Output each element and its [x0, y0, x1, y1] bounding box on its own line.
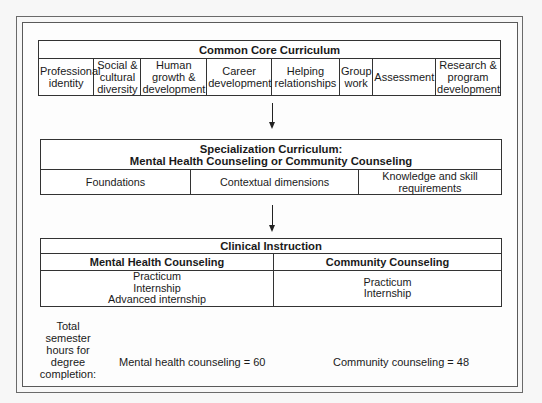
- cell-line: Helping: [273, 65, 338, 77]
- spec-cell-foundations: Foundations: [41, 170, 191, 195]
- clinical-item: Advanced internship: [42, 294, 272, 306]
- common-core-title: Common Core Curriculum: [39, 41, 501, 59]
- cell-line: Contextual dimensions: [192, 176, 357, 188]
- cell-line: program: [437, 71, 499, 83]
- cell-line: Group: [341, 65, 371, 77]
- cell-line: growth &: [142, 71, 205, 83]
- clinical-title: Clinical Instruction: [41, 239, 502, 254]
- label-line: completion:: [36, 368, 100, 380]
- clinical-header-mental-health: Mental Health Counseling: [41, 254, 274, 271]
- core-cell-assessment: Assessment: [373, 59, 436, 96]
- clinical-item: Internship: [275, 288, 500, 300]
- common-core-table: Common Core Curriculum Professional iden…: [38, 40, 501, 96]
- cell-line: Professional: [40, 65, 92, 77]
- core-cell-human-growth: Human growth & development: [141, 59, 207, 96]
- core-cell-professional-identity: Professional identity: [39, 59, 94, 96]
- core-cell-research-program-development: Research & program development: [436, 59, 501, 96]
- total-mental-health-hours: Mental health counseling = 60: [119, 356, 265, 368]
- total-hours-label: Total semester hours for degree completi…: [36, 320, 100, 380]
- spec-cell-knowledge-skill: Knowledge and skill requirements: [359, 170, 502, 195]
- specialization-table: Specialization Curriculum: Mental Health…: [40, 139, 502, 195]
- cell-line: diversity: [95, 83, 139, 95]
- specialization-title: Specialization Curriculum: Mental Health…: [41, 140, 502, 170]
- label-line: hours for: [36, 344, 100, 356]
- cell-line: work: [341, 77, 371, 89]
- cell-line: Assessment: [374, 71, 434, 83]
- cell-line: Social &: [95, 59, 139, 71]
- cell-line: development: [437, 83, 499, 95]
- cell-line: Knowledge and skill: [360, 170, 500, 182]
- core-cell-career-development: Career development: [207, 59, 272, 96]
- cell-line: identity: [40, 77, 92, 89]
- cell-line: Research &: [437, 59, 499, 71]
- clinical-cell-mental-health: Practicum Internship Advanced internship: [41, 271, 274, 307]
- clinical-cell-community: Practicum Internship: [274, 271, 502, 307]
- clinical-item: Practicum: [42, 271, 272, 283]
- cell-line: Human: [142, 59, 205, 71]
- cell-line: Career: [208, 65, 270, 77]
- core-cell-helping-relationships: Helping relationships: [272, 59, 340, 96]
- cell-line: cultural: [95, 71, 139, 83]
- cell-line: development: [142, 83, 205, 95]
- core-cell-social-cultural-diversity: Social & cultural diversity: [94, 59, 141, 96]
- core-cell-group-work: Group work: [339, 59, 372, 96]
- total-community-hours: Community counseling = 48: [333, 356, 469, 368]
- label-line: Total semester: [36, 320, 100, 344]
- cell-line: requirements: [360, 182, 500, 194]
- specialization-title-line1: Specialization Curriculum:: [42, 143, 500, 155]
- clinical-instruction-table: Clinical Instruction Mental Health Couns…: [40, 238, 502, 307]
- cell-line: relationships: [273, 77, 338, 89]
- clinical-header-community: Community Counseling: [274, 254, 502, 271]
- cell-line: Foundations: [42, 176, 189, 188]
- label-line: degree: [36, 356, 100, 368]
- arrow-down-icon: [268, 103, 278, 129]
- spec-cell-contextual-dimensions: Contextual dimensions: [191, 170, 359, 195]
- arrow-down-icon: [268, 205, 278, 232]
- cell-line: development: [208, 77, 270, 89]
- specialization-title-line2: Mental Health Counseling or Community Co…: [42, 155, 500, 167]
